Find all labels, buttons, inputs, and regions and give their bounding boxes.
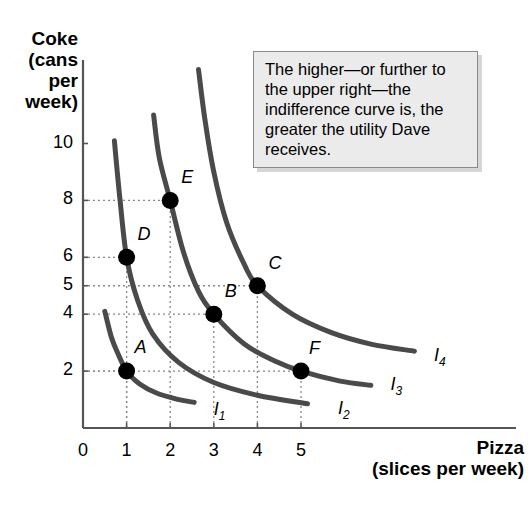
point-label-C: C	[268, 253, 281, 274]
curve-label-I2: I2	[338, 398, 350, 422]
data-point-B	[205, 306, 222, 323]
data-point-F	[293, 363, 310, 380]
curve-label-I1: I1	[214, 399, 226, 423]
point-label-B: B	[225, 281, 237, 302]
y-tick-label-8: 8	[45, 188, 73, 209]
callout-text: The higher—or further to the upper right…	[265, 60, 446, 158]
curve-label-I3: I3	[390, 374, 402, 398]
data-point-C	[249, 277, 266, 294]
curve-label-I4: I4	[434, 345, 446, 369]
y-tick-label-4: 4	[45, 302, 73, 323]
point-label-D: D	[138, 224, 151, 245]
x-tick-label-2: 2	[158, 440, 182, 461]
x-tick-label-0: 0	[71, 440, 95, 461]
data-point-A	[118, 363, 135, 380]
callout-note: The higher—or further to the upper right…	[253, 51, 478, 168]
data-point-E	[162, 192, 179, 209]
x-tick-label-5: 5	[289, 440, 313, 461]
data-point-D	[118, 249, 135, 266]
x-tick-label-3: 3	[202, 440, 226, 461]
x-tick-label-4: 4	[245, 440, 269, 461]
x-tick-label-1: 1	[115, 440, 139, 461]
point-label-E: E	[181, 167, 193, 188]
y-tick-label-2: 2	[45, 359, 73, 380]
point-label-A: A	[135, 337, 147, 358]
y-tick-label-10: 10	[45, 132, 73, 153]
point-label-F: F	[309, 338, 320, 359]
indifference-curve-chart: Coke (cans per week) Pizza (slices per w…	[0, 0, 528, 508]
y-tick-label-6: 6	[45, 245, 73, 266]
y-tick-label-5: 5	[45, 274, 73, 295]
